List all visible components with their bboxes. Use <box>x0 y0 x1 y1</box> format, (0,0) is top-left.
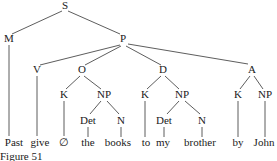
node-d-k: K <box>141 88 149 100</box>
node-d-det: Det <box>156 114 172 126</box>
node-o-det: Det <box>80 114 96 126</box>
edge-dnp-det <box>167 101 179 114</box>
leaf-books: books <box>105 136 131 148</box>
edge-o-k <box>66 76 80 89</box>
leaf-john: John <box>254 136 275 148</box>
edge-s-p <box>68 11 120 34</box>
node-o: O <box>78 63 86 75</box>
leaf-null: ∅ <box>59 136 69 148</box>
node-v: V <box>33 63 41 75</box>
node-p: P <box>120 32 126 44</box>
leaf-the: the <box>81 136 95 148</box>
edge-onp-det <box>90 101 101 114</box>
edge-onp-n <box>107 101 119 114</box>
node-d-n: N <box>198 114 206 126</box>
leaf-to: to <box>142 136 151 148</box>
edge-s-m <box>12 11 62 34</box>
leaf-my: my <box>156 136 171 148</box>
leaf-give: give <box>31 136 50 148</box>
node-m: M <box>4 32 14 44</box>
node-a: A <box>248 63 256 75</box>
edge-d-k <box>147 76 161 89</box>
leaf-by: by <box>233 136 245 148</box>
syntax-tree-diagram: S M P V O D A K NP K NP K NP Det N Det N… <box>0 0 277 161</box>
edge-p-v <box>40 45 120 65</box>
tree-edges <box>9 11 265 137</box>
node-o-k: K <box>60 88 68 100</box>
node-d: D <box>159 63 167 75</box>
figure-caption: Figure 51 <box>0 150 42 161</box>
node-s: S <box>62 0 68 11</box>
node-d-np: NP <box>175 88 189 100</box>
node-a-k: K <box>234 88 242 100</box>
tree-leaves: Past give ∅ the books to my brother by J… <box>5 136 275 148</box>
node-o-np: NP <box>97 88 111 100</box>
leaf-brother: brother <box>184 136 216 148</box>
node-a-np: NP <box>258 88 272 100</box>
edge-dnp-n <box>185 101 200 114</box>
edge-p-a <box>128 44 248 64</box>
leaf-past: Past <box>5 136 23 148</box>
node-o-n: N <box>117 114 125 126</box>
